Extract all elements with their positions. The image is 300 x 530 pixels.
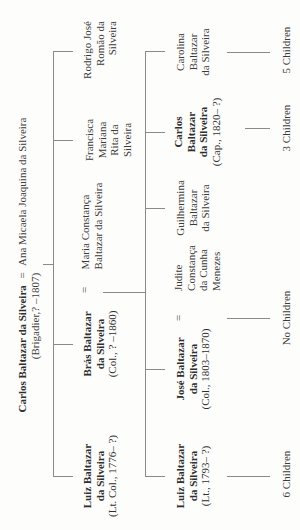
children-count-luiz: 6 Children bbox=[280, 451, 293, 498]
gen2-person-luiz: Luiz Baltazar da Silveira (Lt. Col., 177… bbox=[81, 435, 119, 517]
gen3-tick bbox=[145, 51, 165, 52]
gen2-person-francisca: Francisca Mariana Rita da Silveira bbox=[83, 119, 133, 161]
person-detail: (Cap., 1820– ?) bbox=[210, 98, 223, 166]
person-detail: (Col., ? –1860) bbox=[106, 311, 119, 378]
person-detail: (Col., 1803–1870) bbox=[199, 329, 212, 410]
gen3-sibling-bar bbox=[145, 51, 146, 477]
gen2-person-rodrigo: Rodrigo José Romão da Silveira bbox=[81, 21, 119, 79]
gen3-tick bbox=[145, 369, 165, 370]
gen1-husband-detail: (Brigadier,? –1807) bbox=[29, 273, 42, 359]
name-line: da Silveira bbox=[94, 435, 107, 517]
gen1-husband-name: Carlos Baltazar da Silveira bbox=[16, 285, 28, 412]
name-line: Romão da bbox=[94, 21, 107, 79]
gen2-descent-line bbox=[103, 292, 145, 293]
gen4-descent-line bbox=[227, 52, 270, 53]
name-line: Carolina bbox=[174, 28, 187, 75]
gen3-spouse-judite: Judite Constança da Cunha Menezes bbox=[172, 245, 222, 291]
name-line: Judite bbox=[172, 245, 185, 291]
gen3-person-luiz: Luiz Baltazar da Silveira (Lt., 1793– ?) bbox=[174, 444, 212, 508]
gen3-tick bbox=[145, 132, 165, 133]
gen3-person-jose: José Baltazar da Silveira (Col., 1803–18… bbox=[174, 329, 212, 410]
name-line: da Silveira bbox=[187, 329, 200, 410]
name-line: da Cunha bbox=[197, 245, 210, 291]
gen3-tick bbox=[145, 476, 165, 477]
gen3-person-carlos: Carlos Baltazar da Silveira (Cap., 1820–… bbox=[172, 98, 222, 166]
name-line: Luiz Baltazar bbox=[174, 444, 187, 508]
name-line: Silveira bbox=[106, 21, 119, 79]
gen3-tick bbox=[145, 208, 165, 209]
name-line: da Silveira bbox=[94, 311, 107, 378]
marriage-sign: = bbox=[78, 287, 90, 293]
name-line: Maria Constança bbox=[79, 183, 92, 270]
name-line: Guilhermina bbox=[174, 180, 187, 236]
name-line: da Silveira bbox=[199, 180, 212, 236]
gen2-tick bbox=[53, 140, 73, 141]
name-line: Baltazar bbox=[185, 98, 198, 166]
gen2-sibling-bar bbox=[53, 51, 54, 477]
name-line: Carlos bbox=[172, 98, 185, 166]
gen1-wife-name: Ana Micaela Joaquina da Silveira bbox=[16, 118, 28, 266]
name-line: Rita da bbox=[108, 119, 121, 161]
name-line: Baltazar bbox=[187, 180, 200, 236]
children-count-carlos: 3 Children bbox=[280, 105, 293, 152]
name-line: da Silveira bbox=[199, 28, 212, 75]
children-count-jose: No Children bbox=[280, 291, 293, 346]
gen4-descent-line bbox=[227, 318, 270, 319]
name-line: da Silveira bbox=[187, 444, 200, 508]
name-line: Menezes bbox=[210, 245, 223, 291]
name-line: Mariana bbox=[96, 119, 109, 161]
gen2-person-bras: Brás Baltazar da Silveira (Col., ? –1860… bbox=[81, 311, 119, 378]
marriage-sign: = bbox=[172, 315, 184, 321]
gen2-tick bbox=[53, 51, 73, 52]
gen4-descent-line bbox=[227, 476, 270, 477]
person-detail: (Lt., 1793– ?) bbox=[199, 444, 212, 508]
name-line: Silveira bbox=[121, 119, 134, 161]
children-count-carolina: 5 Children bbox=[280, 27, 293, 74]
gen3-person-guilhermina: Guilhermina Baltazar da Silveira bbox=[174, 180, 212, 236]
name-line: Luiz Baltazar bbox=[81, 435, 94, 517]
gen1-descent-line bbox=[43, 264, 53, 265]
gen3-person-carolina: Carolina Baltazar da Silveira bbox=[174, 28, 212, 75]
name-line: Brás Baltazar bbox=[81, 311, 94, 378]
name-line: Rodrigo José bbox=[81, 21, 94, 79]
gen2-spouse-maria: Maria Constança Baltazar da Silveira bbox=[79, 183, 104, 270]
person-detail: (Lt. Col., 1776– ?) bbox=[106, 435, 119, 517]
name-line: Baltazar bbox=[187, 28, 200, 75]
name-line: José Baltazar bbox=[174, 329, 187, 410]
name-line: Francisca bbox=[83, 119, 96, 161]
name-line: da Silveira bbox=[197, 98, 210, 166]
marriage-sign: = bbox=[16, 272, 28, 278]
gen2-tick bbox=[53, 344, 73, 345]
gen2-tick bbox=[53, 476, 73, 477]
name-line: Baltazar da Silveira bbox=[91, 183, 104, 270]
gen1-couple: Carlos Baltazar da Silveira = Ana Micael… bbox=[16, 118, 29, 413]
name-line: Constança bbox=[185, 245, 198, 291]
gen4-descent-line bbox=[245, 128, 270, 129]
